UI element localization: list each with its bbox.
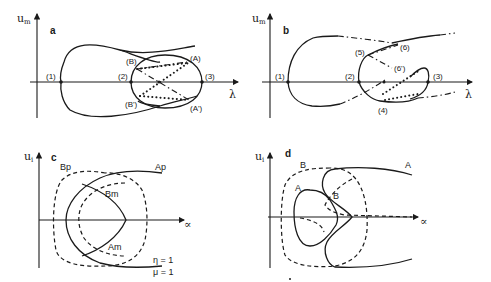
point-label-1: (1) bbox=[275, 72, 285, 81]
point-3-marker bbox=[200, 80, 204, 84]
curve-label-Ap: Ap bbox=[155, 162, 166, 172]
param-eta: η = 1 bbox=[153, 255, 173, 265]
panel-label: d bbox=[285, 148, 291, 159]
b-to-a-dots bbox=[137, 63, 187, 69]
curve-Ap bbox=[66, 171, 162, 267]
b-to-aprime-line bbox=[137, 69, 189, 100]
lower-right-tail bbox=[418, 92, 455, 98]
curve-label-Am: Am bbox=[108, 242, 122, 252]
point-label-6-prime: (6') bbox=[394, 64, 406, 73]
point-1-marker bbox=[59, 80, 63, 84]
panel-label: c bbox=[51, 152, 57, 163]
curve-A-lower-tail bbox=[335, 259, 412, 267]
point-label-B: (B) bbox=[126, 57, 137, 66]
outer-branch-lower bbox=[288, 82, 340, 106]
y-axis-label: ui bbox=[24, 150, 34, 164]
crossing-marker bbox=[158, 81, 161, 84]
point-label-1: (1) bbox=[46, 72, 56, 81]
outer-branch-upper-dashed bbox=[338, 36, 392, 43]
panel-d: ui d ∝ B A A B bbox=[255, 148, 427, 268]
x-axis-label: ∝ bbox=[184, 218, 191, 231]
point-label-B-prime: (B') bbox=[125, 100, 138, 109]
curve-label-Bp: Bp bbox=[60, 162, 71, 172]
line-5-to-6 bbox=[368, 45, 398, 55]
point-label-6: (6) bbox=[400, 43, 410, 52]
bprime-to-aprime-dots bbox=[140, 96, 189, 100]
line-5-to-6prime bbox=[368, 55, 392, 68]
x-axis-label: λ bbox=[465, 88, 472, 101]
point-label-4: (4) bbox=[378, 106, 388, 115]
curve-label-B-outer: B bbox=[300, 160, 306, 170]
point-label-3: (3) bbox=[205, 72, 215, 81]
curve-label-A-outer: A bbox=[405, 160, 411, 170]
upper-tail-dashed bbox=[440, 33, 455, 35]
point-label-3: (3) bbox=[433, 72, 443, 81]
point-label-5: (5) bbox=[355, 48, 365, 57]
dotted-diag-lower bbox=[385, 94, 418, 100]
point-label-2: (2) bbox=[345, 72, 355, 81]
panel-label: b bbox=[283, 25, 289, 36]
outer-branch-upper bbox=[288, 36, 338, 82]
point-3-marker bbox=[426, 80, 430, 84]
curve-label-A-inner: A bbox=[295, 183, 301, 193]
point-label-2: (2) bbox=[118, 72, 128, 81]
upper-tail bbox=[392, 35, 440, 43]
curve-B-inner-lower bbox=[300, 218, 324, 232]
y-axis-label: um bbox=[252, 12, 266, 26]
curve-label-B-inner: B bbox=[333, 191, 339, 201]
panel-label: a bbox=[50, 25, 56, 36]
stray-dot bbox=[289, 278, 291, 280]
curve-label-Bm: Bm bbox=[105, 189, 119, 199]
point-label-A: (A) bbox=[190, 54, 201, 63]
point-label-A-prime: (A') bbox=[190, 104, 203, 113]
curve-Bp bbox=[54, 171, 147, 266]
y-axis-label: ui bbox=[255, 150, 265, 164]
panel-a: um a λ (1) (2) (3) (A) (B) (A') (B') bbox=[17, 12, 238, 118]
panel-c: ui c ∝ Bp Ap Bm Am η = 1 μ = 1 bbox=[24, 150, 191, 277]
x-axis-label: ∝ bbox=[420, 215, 427, 228]
crossing-marker bbox=[383, 81, 386, 84]
param-mu: μ = 1 bbox=[153, 267, 173, 277]
point-1-marker bbox=[286, 80, 290, 84]
point-2-marker bbox=[129, 80, 133, 84]
y-axis-label: um bbox=[17, 12, 31, 26]
curve-A-upper-tail bbox=[335, 168, 412, 175]
x-axis-label: λ bbox=[229, 88, 236, 101]
figure-canvas: um a λ (1) (2) (3) (A) (B) (A') (B') um … bbox=[0, 0, 491, 282]
panel-b: um b λ (1) (2) (3) (4) (5) (6) (6') bbox=[252, 12, 472, 280]
point-2-marker bbox=[357, 80, 361, 84]
